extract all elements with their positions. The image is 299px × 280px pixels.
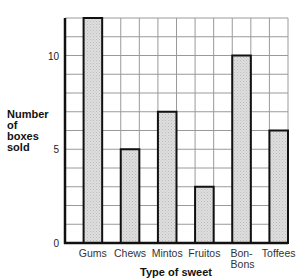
bar-chart: 0510 GumsChewsMintosFruitosBon-BonsToffe… (0, 0, 299, 280)
x-axis-label: Type of sweet (140, 266, 212, 278)
x-category-label: Gums (79, 247, 107, 259)
x-category-label: Fruitos (188, 247, 220, 259)
bar-mintos (158, 112, 177, 243)
bar-chews (121, 149, 140, 243)
x-category-label: Bon-Bons (230, 247, 254, 270)
bar-bon-bons (232, 56, 251, 244)
y-tick-labels: 0510 (48, 51, 60, 250)
y-axis-label: Numberofboxessold (7, 108, 49, 153)
x-category-label: Toffees (262, 247, 296, 259)
y-tick-label: 0 (53, 238, 59, 249)
x-category-label: Mintos (152, 247, 183, 259)
y-tick-label: 10 (48, 51, 60, 62)
x-category-label: Chews (114, 247, 146, 259)
bar-fruitos (195, 187, 214, 243)
bar-gums (84, 18, 103, 243)
y-axis-label-line: sold (7, 141, 30, 153)
y-tick-label: 5 (53, 144, 59, 155)
bar-toffees (269, 131, 288, 244)
